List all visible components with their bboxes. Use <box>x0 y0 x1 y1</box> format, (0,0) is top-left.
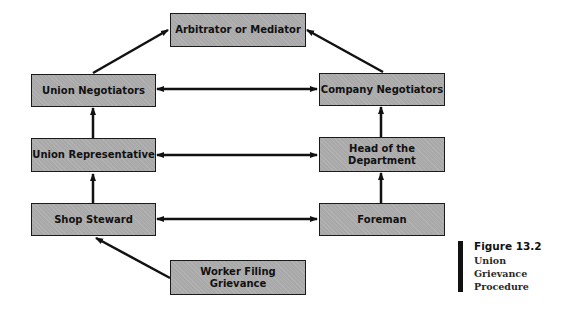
arrow-union-negotiators-to-arbitrator <box>93 30 168 73</box>
node-company-negotiators: Company Negotiators <box>319 73 445 106</box>
node-union-representative: Union Representative <box>31 138 156 172</box>
caption-bar <box>458 241 463 292</box>
node-worker-filing-grievance: Worker Filing Grievance <box>170 260 306 295</box>
node-foreman: Foreman <box>319 203 445 236</box>
arrow-company-negotiators-to-arbitrator <box>307 30 383 72</box>
figure-number: Figure 13.2 <box>474 240 542 252</box>
node-arbitrator-or-mediator: Arbitrator or Mediator <box>170 13 306 47</box>
caption-line-2: Grievance <box>474 268 527 279</box>
node-shop-steward: Shop Steward <box>31 203 156 236</box>
node-head-of-the-department: Head of the Department <box>319 137 445 172</box>
arrow-worker-to-shop-steward <box>96 238 170 278</box>
caption-line-3: Procedure <box>474 281 529 292</box>
grievance-procedure-diagram: Arbitrator or Mediator Union Negotiators… <box>0 0 570 312</box>
node-union-negotiators: Union Negotiators <box>31 74 156 107</box>
caption-line-1: Union <box>474 255 506 266</box>
